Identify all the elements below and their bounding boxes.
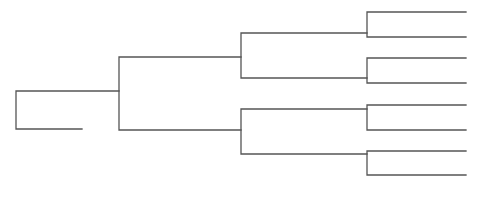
- level3-upper-bracket: [241, 33, 367, 78]
- level2-bracket: [119, 57, 241, 130]
- leaf-bracket-1: [367, 12, 466, 37]
- root-bracket: [16, 91, 119, 129]
- leaf-bracket-2: [367, 58, 466, 83]
- leaf-bracket-4: [367, 151, 466, 175]
- leaf-bracket-3: [367, 105, 466, 130]
- bracket-tree-diagram: [0, 0, 482, 203]
- level3-lower-bracket: [241, 109, 367, 154]
